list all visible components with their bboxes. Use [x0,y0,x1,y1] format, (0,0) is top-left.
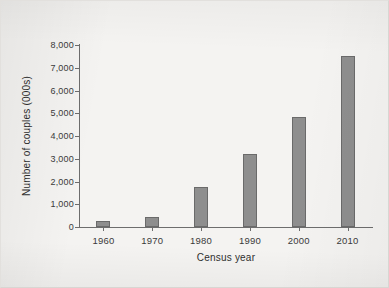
bar-2000 [292,117,306,227]
bar-chart-figure: Number of couples (000s) 01,0002,0003,00… [0,0,389,288]
y-tick-label: 8,000 [50,40,74,50]
x-tick-mark [250,227,251,231]
x-tick-mark [152,227,153,231]
y-tick-label: 7,000 [50,63,74,73]
bar-2010 [341,56,355,227]
x-tick-label: 1990 [239,235,261,246]
y-tick-label: 2,000 [50,177,74,187]
y-tick-label: 1,000 [50,199,74,209]
bar-1970 [145,217,159,227]
bar-1990 [243,154,257,227]
x-axis-line [79,227,373,228]
x-tick-mark [201,227,202,231]
x-tick-mark [348,227,349,231]
plot-area: 01,0002,0003,0004,0005,0006,0007,0008,00… [79,45,372,227]
y-tick-label: 6,000 [50,86,74,96]
y-tick-label: 5,000 [50,108,74,118]
x-tick-label: 1970 [141,235,163,246]
x-tick-mark [299,227,300,231]
x-tick-label: 2010 [337,235,359,246]
y-axis-line [79,44,80,228]
x-tick-label: 2000 [288,235,310,246]
x-axis-title: Census year [79,252,373,263]
y-tick-label: 0 [69,222,74,232]
y-tick-label: 4,000 [50,131,74,141]
x-tick-label: 1980 [190,235,212,246]
x-tick-mark [103,227,104,231]
bar-1980 [194,187,208,227]
y-axis-title: Number of couples (000s) [21,76,32,196]
y-tick-label: 3,000 [50,154,74,164]
x-tick-label: 1960 [92,235,114,246]
